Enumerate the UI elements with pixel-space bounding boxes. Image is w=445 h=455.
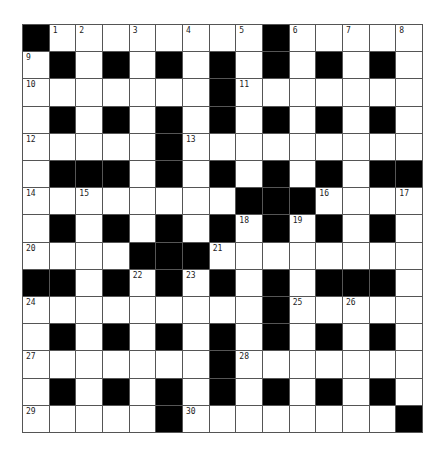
answer-cell[interactable] bbox=[290, 406, 317, 433]
answer-cell[interactable] bbox=[76, 243, 103, 270]
answer-cell[interactable] bbox=[210, 134, 237, 161]
answer-cell[interactable] bbox=[236, 406, 263, 433]
answer-cell[interactable] bbox=[290, 52, 317, 79]
answer-cell[interactable] bbox=[396, 351, 423, 378]
answer-cell[interactable] bbox=[396, 215, 423, 242]
answer-cell[interactable] bbox=[183, 215, 210, 242]
answer-cell[interactable]: 18 bbox=[236, 215, 263, 242]
answer-cell[interactable] bbox=[343, 406, 370, 433]
answer-cell[interactable] bbox=[236, 379, 263, 406]
answer-cell[interactable] bbox=[130, 188, 157, 215]
answer-cell[interactable] bbox=[263, 134, 290, 161]
answer-cell[interactable] bbox=[343, 215, 370, 242]
answer-cell[interactable]: 9 bbox=[23, 52, 50, 79]
answer-cell[interactable]: 11 bbox=[236, 79, 263, 106]
answer-cell[interactable] bbox=[396, 379, 423, 406]
answer-cell[interactable] bbox=[316, 406, 343, 433]
answer-cell[interactable]: 30 bbox=[183, 406, 210, 433]
answer-cell[interactable] bbox=[290, 79, 317, 106]
answer-cell[interactable]: 14 bbox=[23, 188, 50, 215]
answer-cell[interactable] bbox=[130, 134, 157, 161]
answer-cell[interactable] bbox=[130, 79, 157, 106]
answer-cell[interactable] bbox=[396, 243, 423, 270]
answer-cell[interactable] bbox=[396, 324, 423, 351]
answer-cell[interactable] bbox=[263, 243, 290, 270]
answer-cell[interactable] bbox=[370, 243, 397, 270]
answer-cell[interactable] bbox=[236, 107, 263, 134]
answer-cell[interactable] bbox=[370, 351, 397, 378]
answer-cell[interactable] bbox=[263, 79, 290, 106]
answer-cell[interactable] bbox=[76, 134, 103, 161]
answer-cell[interactable] bbox=[343, 243, 370, 270]
answer-cell[interactable] bbox=[23, 379, 50, 406]
answer-cell[interactable] bbox=[236, 243, 263, 270]
answer-cell[interactable] bbox=[316, 297, 343, 324]
answer-cell[interactable] bbox=[396, 79, 423, 106]
answer-cell[interactable] bbox=[183, 52, 210, 79]
answer-cell[interactable]: 4 bbox=[183, 25, 210, 52]
answer-cell[interactable] bbox=[396, 52, 423, 79]
answer-cell[interactable] bbox=[316, 243, 343, 270]
answer-cell[interactable] bbox=[50, 243, 77, 270]
answer-cell[interactable]: 16 bbox=[316, 188, 343, 215]
answer-cell[interactable]: 7 bbox=[343, 25, 370, 52]
answer-cell[interactable] bbox=[343, 161, 370, 188]
answer-cell[interactable] bbox=[103, 79, 130, 106]
answer-cell[interactable] bbox=[130, 297, 157, 324]
answer-cell[interactable] bbox=[263, 351, 290, 378]
answer-cell[interactable] bbox=[23, 215, 50, 242]
answer-cell[interactable] bbox=[76, 270, 103, 297]
answer-cell[interactable] bbox=[103, 351, 130, 378]
answer-cell[interactable] bbox=[183, 107, 210, 134]
answer-cell[interactable] bbox=[236, 161, 263, 188]
answer-cell[interactable] bbox=[156, 79, 183, 106]
answer-cell[interactable] bbox=[343, 324, 370, 351]
answer-cell[interactable] bbox=[290, 351, 317, 378]
answer-cell[interactable] bbox=[210, 406, 237, 433]
answer-cell[interactable] bbox=[343, 188, 370, 215]
answer-cell[interactable] bbox=[396, 297, 423, 324]
answer-cell[interactable]: 20 bbox=[23, 243, 50, 270]
answer-cell[interactable] bbox=[343, 351, 370, 378]
answer-cell[interactable]: 21 bbox=[210, 243, 237, 270]
answer-cell[interactable] bbox=[183, 79, 210, 106]
answer-cell[interactable] bbox=[103, 406, 130, 433]
answer-cell[interactable] bbox=[290, 107, 317, 134]
answer-cell[interactable]: 25 bbox=[290, 297, 317, 324]
answer-cell[interactable] bbox=[396, 107, 423, 134]
answer-cell[interactable]: 17 bbox=[396, 188, 423, 215]
answer-cell[interactable] bbox=[76, 406, 103, 433]
answer-cell[interactable] bbox=[236, 52, 263, 79]
answer-cell[interactable] bbox=[23, 324, 50, 351]
answer-cell[interactable] bbox=[290, 270, 317, 297]
answer-cell[interactable] bbox=[210, 297, 237, 324]
answer-cell[interactable]: 1 bbox=[50, 25, 77, 52]
answer-cell[interactable] bbox=[316, 134, 343, 161]
answer-cell[interactable] bbox=[130, 161, 157, 188]
answer-cell[interactable] bbox=[130, 215, 157, 242]
answer-cell[interactable] bbox=[130, 107, 157, 134]
answer-cell[interactable] bbox=[370, 406, 397, 433]
answer-cell[interactable] bbox=[76, 52, 103, 79]
answer-cell[interactable]: 3 bbox=[130, 25, 157, 52]
answer-cell[interactable] bbox=[183, 188, 210, 215]
answer-cell[interactable] bbox=[76, 379, 103, 406]
answer-cell[interactable] bbox=[50, 351, 77, 378]
answer-cell[interactable] bbox=[290, 134, 317, 161]
answer-cell[interactable] bbox=[236, 324, 263, 351]
answer-cell[interactable] bbox=[103, 243, 130, 270]
answer-cell[interactable] bbox=[76, 215, 103, 242]
answer-cell[interactable] bbox=[183, 379, 210, 406]
answer-cell[interactable] bbox=[50, 79, 77, 106]
answer-cell[interactable] bbox=[183, 324, 210, 351]
answer-cell[interactable] bbox=[103, 297, 130, 324]
answer-cell[interactable] bbox=[236, 297, 263, 324]
answer-cell[interactable] bbox=[130, 52, 157, 79]
answer-cell[interactable] bbox=[76, 107, 103, 134]
answer-cell[interactable] bbox=[130, 324, 157, 351]
answer-cell[interactable] bbox=[156, 297, 183, 324]
answer-cell[interactable]: 8 bbox=[396, 25, 423, 52]
answer-cell[interactable] bbox=[370, 297, 397, 324]
answer-cell[interactable]: 26 bbox=[343, 297, 370, 324]
answer-cell[interactable] bbox=[156, 188, 183, 215]
